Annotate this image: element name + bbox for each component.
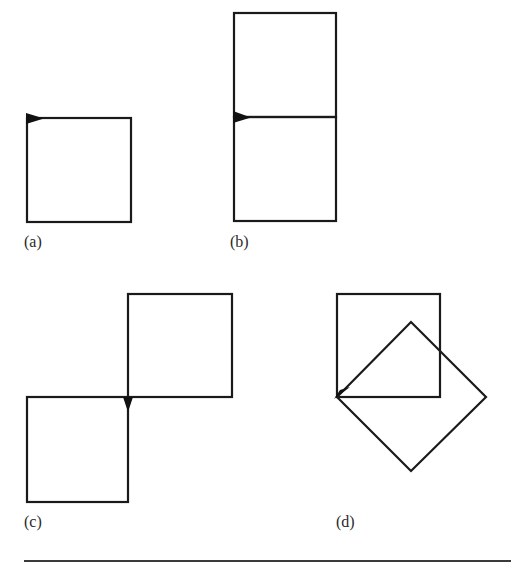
panel-b-label: (b) xyxy=(230,234,249,250)
panel-d-label: (d) xyxy=(336,514,355,530)
bottom-divider xyxy=(24,560,511,562)
panel-b-arrowhead-icon xyxy=(233,111,251,123)
panel-a-arrowhead-icon xyxy=(26,113,44,124)
panel-d-shapes xyxy=(337,294,486,471)
panel-c-arrowhead-icon xyxy=(123,397,133,412)
panel-c-top-square xyxy=(128,294,232,397)
panel-b-top-square xyxy=(234,13,336,117)
panel-a-shapes xyxy=(27,118,131,222)
panel-a-square xyxy=(27,118,131,222)
panel-b-bottom-square xyxy=(234,117,336,221)
panel-c-label: (c) xyxy=(24,514,42,530)
panel-c-bottom-square xyxy=(27,397,128,502)
figure-canvas xyxy=(0,0,511,567)
panel-a-label: (a) xyxy=(24,234,42,250)
